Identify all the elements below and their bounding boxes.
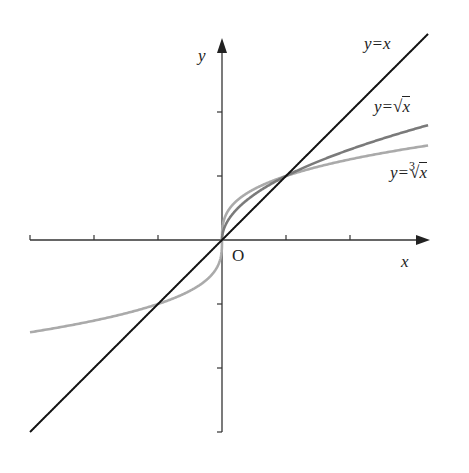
- function-plot: [0, 0, 469, 473]
- cbrt-symbol-icon: √: [410, 163, 419, 182]
- sqrt-symbol-icon: √: [393, 97, 402, 116]
- y-arrow-icon: [217, 38, 227, 53]
- curves: [30, 34, 428, 432]
- origin-label: O: [232, 246, 244, 266]
- y-axis-label: y: [198, 46, 206, 66]
- cbrt-label: y=3√x: [390, 159, 427, 183]
- curve-cbrtx: [30, 145, 428, 332]
- sqrt-label: y=√x: [374, 97, 410, 117]
- sqrt-label-prefix: y=: [374, 97, 393, 116]
- curve-x: [30, 34, 428, 432]
- x-axis-label: x: [401, 252, 409, 272]
- cbrt-radicand: x: [419, 162, 427, 182]
- sqrt-radicand: x: [402, 96, 410, 116]
- line-label: y=x: [364, 34, 391, 54]
- cbrt-label-prefix: y=: [390, 163, 409, 182]
- x-arrow-icon: [416, 235, 430, 245]
